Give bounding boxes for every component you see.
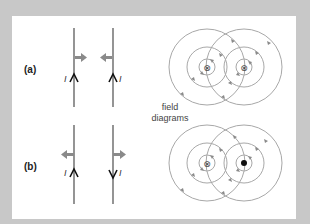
current-label: I bbox=[119, 168, 122, 178]
current-into-page-icon: ⊗ bbox=[203, 63, 211, 73]
part-a-wires: (a) I I bbox=[24, 28, 122, 107]
force-arrow-left-icon bbox=[61, 150, 74, 159]
field-diagrams-caption: field diagrams bbox=[151, 102, 189, 123]
part-b-wires: (b) I I bbox=[24, 125, 126, 204]
current-label: I bbox=[64, 168, 67, 178]
svg-text:diagrams: diagrams bbox=[151, 113, 189, 123]
field-diagram-a bbox=[169, 29, 282, 105]
force-arrow-right-icon bbox=[75, 53, 87, 62]
wires-diagram: (a) I I (b) I I bbox=[0, 0, 310, 224]
force-arrow-left-icon bbox=[100, 53, 112, 62]
field-diagram-b bbox=[169, 125, 282, 201]
current-into-page-icon: ⊗ bbox=[240, 63, 248, 73]
part-b-label: (b) bbox=[24, 161, 37, 172]
svg-text:field: field bbox=[162, 102, 179, 112]
current-label: I bbox=[119, 74, 122, 84]
current-label: I bbox=[64, 74, 67, 84]
force-arrow-right-icon bbox=[113, 150, 126, 159]
current-into-page-icon: ⊗ bbox=[203, 159, 211, 169]
field-arrows-a bbox=[180, 39, 271, 99]
part-a-label: (a) bbox=[24, 64, 36, 75]
current-out-of-page-icon bbox=[241, 160, 247, 166]
